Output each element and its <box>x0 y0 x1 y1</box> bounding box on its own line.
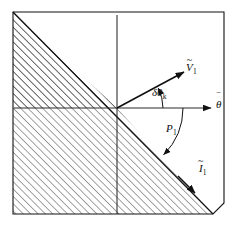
power-angle-label: P1 <box>166 123 176 134</box>
i-vector-label: ~ I 1 <box>199 163 206 174</box>
vector-diagram-figure: ~ V 1 δθk ‾ θ P1 ~ I 1 <box>0 0 236 229</box>
hatch-fill-upper <box>13 12 117 108</box>
theta-symbol: ‾ θ <box>216 99 221 110</box>
v-symbol: ~ V <box>186 62 193 73</box>
delta-theta-label: δθk <box>152 87 166 98</box>
tilde-accent-v: ~ <box>187 55 192 65</box>
v-vector-label: ~ V 1 <box>186 62 196 73</box>
v-subscript: 1 <box>193 67 197 76</box>
p-subscript: 1 <box>173 128 177 137</box>
v-vector-arrow <box>117 72 184 108</box>
theta-axis-label: ‾ θ <box>216 99 221 110</box>
diagram-canvas <box>0 0 236 229</box>
delta-theta-subscript: k <box>163 92 167 101</box>
tilde-accent-i: ~ <box>198 156 203 166</box>
i-subscript: 1 <box>203 168 207 177</box>
delta-theta-base: δθ <box>152 86 163 98</box>
p-base-letter: P <box>166 122 173 134</box>
overbar-accent-theta: ‾ <box>217 93 220 103</box>
